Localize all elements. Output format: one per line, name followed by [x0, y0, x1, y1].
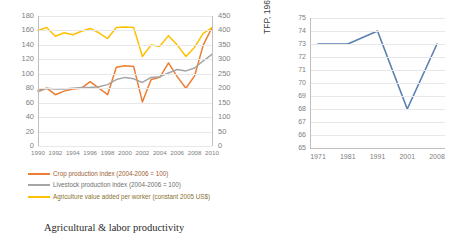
- chart-total-factor-productivity: TFP, 1961=100) 6566676869707172737475 19…: [268, 0, 468, 244]
- gridline: [310, 44, 445, 45]
- gridline: [310, 109, 445, 110]
- y-axis-tick-label: 140: [0, 41, 34, 49]
- gridline: [38, 117, 212, 118]
- axis-spine-x: [310, 148, 445, 149]
- y-axis-tick-label: 100: [0, 70, 34, 78]
- legend-swatch-crop: [28, 173, 50, 175]
- left-plot-area: 020406080100120140160180 050100150200250…: [38, 16, 212, 146]
- y-axis-tick-label: 60: [0, 99, 34, 107]
- gridline: [310, 83, 445, 84]
- axis-spine-y: [310, 18, 311, 148]
- y-axis-tick-label: 69: [282, 92, 306, 99]
- legend-swatch-livestock: [28, 184, 50, 186]
- chart-agricultural-labor-productivity: 020406080100120140160180 050100150200250…: [0, 0, 268, 244]
- y-axis-tick-label: 68: [282, 105, 306, 112]
- legend-label-value-added: Agriculture value added per worker (cons…: [53, 194, 210, 200]
- gridline: [310, 18, 445, 19]
- secondary-y-axis-tick-label: 200: [218, 84, 252, 92]
- x-axis-tick-label: 1991: [362, 153, 394, 160]
- gridline: [310, 57, 445, 58]
- secondary-y-axis-tick-label: 250: [218, 70, 252, 78]
- y-axis-tick-label: 120: [0, 55, 34, 63]
- y-axis-tick-label: 75: [282, 14, 306, 21]
- x-axis-tick-label: 2010: [198, 150, 226, 156]
- secondary-y-axis-tick-label: 400: [218, 26, 252, 34]
- secondary-y-axis-tick-label: 300: [218, 55, 252, 63]
- left-chart-caption: Agricultural & labor productivity: [44, 222, 184, 233]
- figure-container: 020406080100120140160180 050100150200250…: [0, 0, 468, 244]
- gridline: [310, 135, 445, 136]
- gridline: [38, 103, 212, 104]
- left-legend: Crop production index (2004-2006 = 100) …: [28, 168, 258, 203]
- y-axis-tick-label: 40: [0, 113, 34, 121]
- y-axis-tick-label: 71: [282, 66, 306, 73]
- gridline: [310, 96, 445, 97]
- gridline: [310, 70, 445, 71]
- gridline: [38, 30, 212, 31]
- gridline: [310, 31, 445, 32]
- x-axis-tick-label: 1981: [332, 153, 364, 160]
- secondary-y-axis-tick-label: 150: [218, 99, 252, 107]
- legend-label-livestock: Livestock production index (2004-2006 = …: [53, 182, 181, 188]
- y-axis-tick-label: 67: [282, 118, 306, 125]
- legend-item-crop: Crop production index (2004-2006 = 100): [28, 168, 258, 180]
- legend-swatch-value-added: [28, 196, 50, 198]
- y-axis-tick-label: 80: [0, 84, 34, 92]
- secondary-y-axis-tick-label: 0: [218, 142, 252, 150]
- gridline: [310, 122, 445, 123]
- secondary-y-axis-tick-label: 50: [218, 128, 252, 136]
- legend-item-value-added: Agriculture value added per worker (cons…: [28, 191, 258, 203]
- right-y-axis-label: TFP, 1961=100): [262, 0, 272, 34]
- gridline: [38, 88, 212, 89]
- x-axis-tick-label: 2008: [421, 153, 453, 160]
- gridline: [38, 132, 212, 133]
- right-plot-area: 6566676869707172737475 19711981199120012…: [310, 18, 445, 148]
- series-line: [38, 28, 212, 102]
- gridline: [38, 59, 212, 60]
- axis-spine: [38, 16, 39, 146]
- y-axis-tick-label: 70: [282, 79, 306, 86]
- gridline: [38, 45, 212, 46]
- gridline: [38, 74, 212, 75]
- gridline: [38, 146, 212, 147]
- axis-spine: [212, 16, 213, 146]
- y-axis-tick-label: 160: [0, 26, 34, 34]
- x-axis-tick-label: 2001: [391, 153, 423, 160]
- y-axis-tick-label: 65: [282, 144, 306, 151]
- y-axis-tick-label: 0: [0, 142, 34, 150]
- gridline: [38, 16, 212, 17]
- left-series-lines: [38, 16, 212, 146]
- y-axis-tick-label: 72: [282, 53, 306, 60]
- secondary-y-axis-tick-label: 350: [218, 41, 252, 49]
- y-axis-tick-label: 73: [282, 40, 306, 47]
- legend-item-livestock: Livestock production index (2004-2006 = …: [28, 180, 258, 192]
- y-axis-tick-label: 180: [0, 12, 34, 20]
- secondary-y-axis-tick-label: 450: [218, 12, 252, 20]
- y-axis-tick-label: 66: [282, 131, 306, 138]
- legend-label-crop: Crop production index (2004-2006 = 100): [53, 171, 168, 177]
- secondary-y-axis-tick-label: 100: [218, 113, 252, 121]
- x-axis-tick-label: 1971: [302, 153, 334, 160]
- y-axis-tick-label: 20: [0, 128, 34, 136]
- y-axis-tick-label: 74: [282, 27, 306, 34]
